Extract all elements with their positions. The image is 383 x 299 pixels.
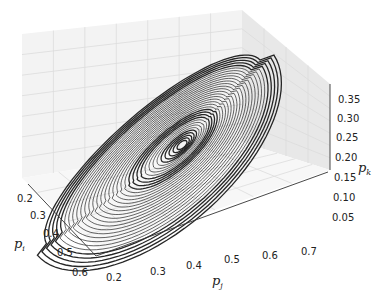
y-tick: 0.3	[150, 266, 166, 277]
x-tick: 0.6	[72, 267, 88, 278]
z-axis-ticks: 0.05 0.10 0.15 0.20 0.25 0.30 0.35	[332, 94, 360, 223]
y-tick: 0.2	[106, 272, 122, 283]
x-tick: 0.4	[43, 228, 59, 239]
x-tick: 0.2	[17, 193, 33, 204]
y-tick: 0.5	[224, 254, 240, 265]
x-tick: 0.5	[57, 247, 73, 258]
x-tick: 0.3	[30, 210, 46, 221]
z-tick: 0.35	[338, 94, 360, 105]
y-tick: 0.6	[262, 250, 278, 261]
z-tick: 0.20	[335, 152, 357, 163]
y-tick: 0.4	[186, 260, 202, 271]
attractor-3d-plot: 0.2 0.3 0.4 0.5 0.6 pi 0.2 0.3 0.4 0.5 0…	[0, 0, 383, 299]
y-tick: 0.7	[301, 246, 317, 257]
x-axis-label: pi	[14, 236, 25, 253]
z-tick: 0.10	[333, 192, 355, 203]
z-tick: 0.25	[336, 132, 358, 143]
z-tick: 0.05	[332, 212, 354, 223]
z-tick: 0.30	[337, 113, 359, 124]
z-tick: 0.15	[334, 172, 356, 183]
z-axis-label: pk	[358, 160, 371, 177]
y-axis-label: pj	[212, 273, 223, 290]
